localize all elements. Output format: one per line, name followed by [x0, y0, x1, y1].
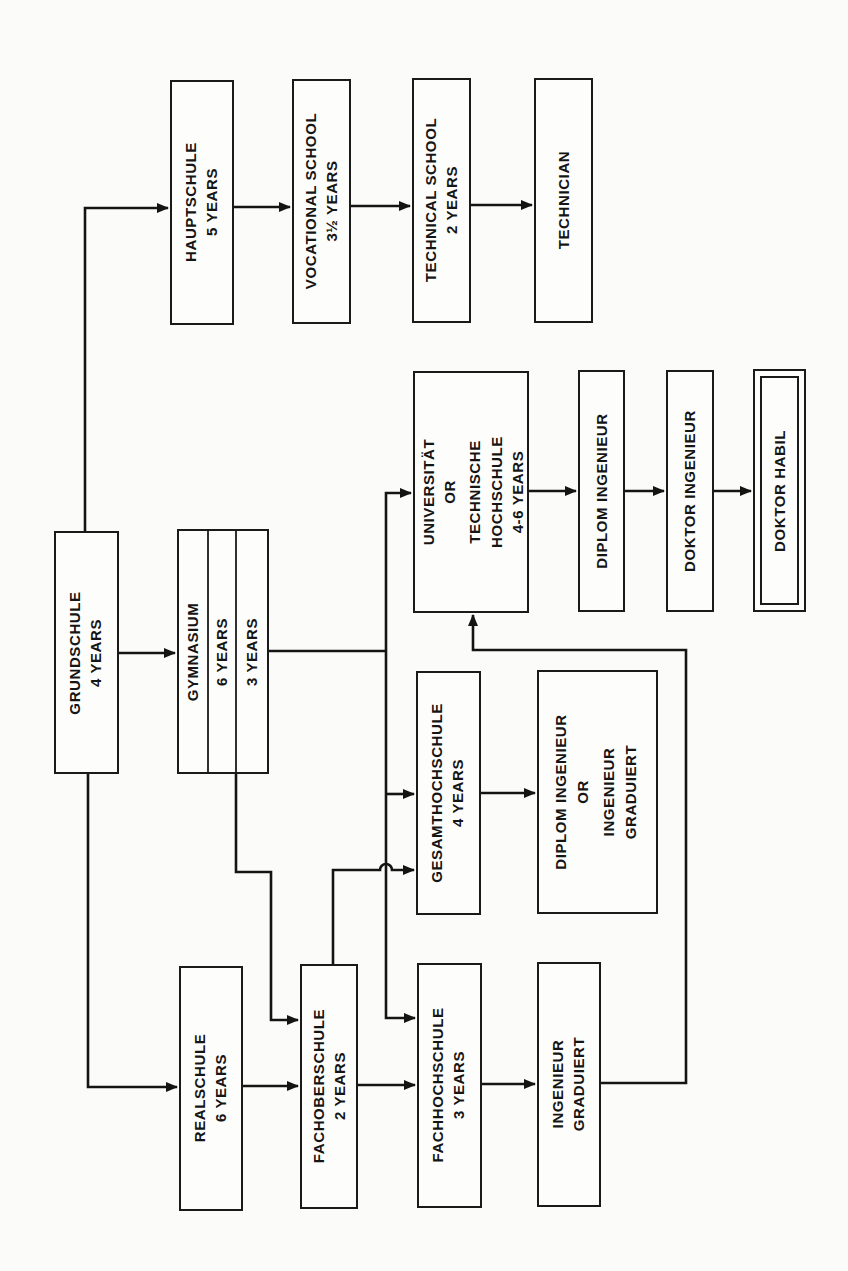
node-gymnasium: GYMNASIUM 6 YEARS 3 YEARS — [178, 530, 268, 773]
diplom-or-graduiert-line2: OR — [574, 780, 591, 804]
edge-fachoberschule-gesamthochschule — [333, 864, 414, 965]
universitaet-line3: TECHNISCHE — [466, 440, 483, 544]
edge-bus-fachhochschule — [386, 651, 415, 1018]
hauptschule-name: HAUPTSCHULE — [182, 142, 199, 262]
edge-grundschule-hauptschule — [85, 208, 168, 532]
universitaet-duration: 4-6 YEARS — [509, 451, 526, 534]
edge-grundschule-realschule — [88, 773, 177, 1087]
doktor-ingenieur-name: DOKTOR INGENIEUR — [681, 410, 698, 572]
node-grundschule: GRUNDSCHULE 4 YEARS — [55, 532, 118, 773]
realschule-duration: 6 YEARS — [212, 1054, 229, 1122]
node-fachhochschule: FACHHOCHSCHULE 3 YEARS — [418, 964, 481, 1207]
technical-school-name: TECHNICAL SCHOOL — [422, 118, 439, 282]
universitaet-line2: OR — [441, 480, 458, 504]
technical-school-duration: 2 YEARS — [443, 166, 460, 234]
gymnasium-duration-6: 6 YEARS — [213, 618, 230, 686]
universitaet-line1: UNIVERSITÄT — [420, 439, 437, 546]
realschule-name: REALSCHULE — [191, 1034, 208, 1143]
node-realschule: REALSCHULE 6 YEARS — [180, 967, 242, 1210]
diplom-ingenieur-name: DIPLOM INGENIEUR — [593, 413, 610, 568]
diplom-or-graduiert-line1: DIPLOM INGENIEUR — [552, 714, 569, 869]
node-gesamthochschule: GESAMTHOCHSCHULE 4 YEARS — [417, 672, 480, 914]
node-hauptschule: HAUPTSCHULE 5 YEARS — [171, 81, 233, 324]
node-technician: TECHNICIAN — [535, 79, 592, 322]
fachoberschule-name: FACHOBERSCHULE — [310, 1009, 327, 1163]
diplom-or-graduiert-line4: GRADUIERT — [622, 745, 639, 840]
node-doktor-habil: DOKTOR HABIL — [754, 370, 805, 611]
grundschule-duration: 4 YEARS — [87, 619, 104, 687]
node-doktor-ingenieur: DOKTOR INGENIEUR — [667, 371, 713, 611]
node-technical-school: TECHNICAL SCHOOL 2 YEARS — [413, 79, 470, 322]
vocational-school-duration: 3½ YEARS — [323, 160, 340, 241]
education-flow-diagram: GRUNDSCHULE 4 YEARS HAUPTSCHULE 5 YEARS … — [0, 0, 848, 1271]
fachhochschule-duration: 3 YEARS — [450, 1051, 467, 1119]
grundschule-name: GRUNDSCHULE — [66, 591, 83, 714]
ingenieur-graduiert-line2: GRADUIERT — [570, 1037, 587, 1132]
node-ingenieur-graduiert: INGENIEUR GRADUIERT — [538, 963, 600, 1206]
gymnasium-name: GYMNASIUM — [184, 603, 201, 702]
node-fachoberschule: FACHOBERSCHULE 2 YEARS — [301, 965, 357, 1208]
universitaet-line4: HOCHSCHULE — [488, 436, 505, 548]
edge-gymnasium-fachoberschule — [236, 773, 298, 1020]
gesamthochschule-duration: 4 YEARS — [449, 759, 466, 827]
hauptschule-duration: 5 YEARS — [203, 168, 220, 236]
vocational-school-name: VOCATIONAL SCHOOL — [302, 113, 319, 289]
fachoberschule-duration: 2 YEARS — [331, 1052, 348, 1120]
node-universitaet: UNIVERSITÄT OR TECHNISCHE HOCHSCHULE 4-6… — [414, 372, 528, 612]
technician-name: TECHNICIAN — [555, 151, 572, 250]
gesamthochschule-name: GESAMTHOCHSCHULE — [428, 703, 445, 883]
doktor-habil-name: DOKTOR HABIL — [771, 430, 788, 552]
node-vocational-school: VOCATIONAL SCHOOL 3½ YEARS — [293, 80, 350, 323]
ingenieur-graduiert-line1: INGENIEUR — [549, 1040, 566, 1129]
node-diplom-or-graduiert: DIPLOM INGENIEUR OR INGENIEUR GRADUIERT — [538, 671, 657, 913]
node-diplom-ingenieur: DIPLOM INGENIEUR — [579, 371, 624, 611]
fachhochschule-name: FACHHOCHSCHULE — [429, 1007, 446, 1162]
diplom-or-graduiert-line3: INGENIEUR — [600, 748, 617, 837]
edge-bus-universitaet — [386, 493, 411, 651]
gymnasium-duration-3: 3 YEARS — [243, 618, 260, 686]
